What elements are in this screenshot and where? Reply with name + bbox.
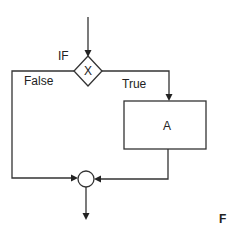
entry-arrow bbox=[85, 17, 92, 57]
false-label: False bbox=[24, 74, 54, 88]
process-return bbox=[94, 149, 168, 183]
arrowhead-icon bbox=[94, 176, 101, 183]
if-label: IF bbox=[58, 49, 69, 63]
decision-label: X bbox=[84, 64, 92, 78]
arrowhead-icon bbox=[83, 213, 90, 220]
true-label: True bbox=[122, 77, 147, 91]
decision-node: X bbox=[74, 56, 102, 86]
flowchart-canvas: X IF False True A F bbox=[0, 0, 228, 239]
figure-letter: F bbox=[219, 212, 226, 226]
arrowhead-icon bbox=[71, 175, 78, 182]
process-node: A bbox=[124, 101, 206, 149]
exit-arrow bbox=[83, 187, 90, 220]
arrowhead-icon bbox=[166, 94, 173, 101]
join-node bbox=[78, 171, 94, 187]
process-label: A bbox=[163, 119, 171, 133]
